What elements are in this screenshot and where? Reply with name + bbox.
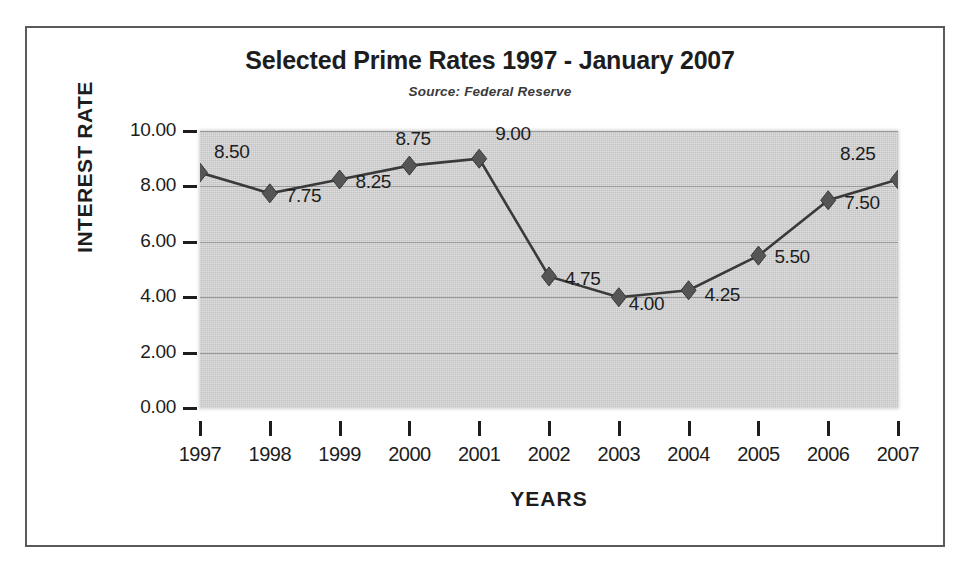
x-axis-tick-mark [339,421,342,436]
data-point-label: 4.00 [629,293,664,315]
data-point-marker [402,156,417,175]
x-axis-tick-mark [199,421,202,436]
data-point-label: 8.50 [214,141,249,163]
data-point-marker [891,170,899,189]
x-axis-tick-label: 2007 [863,443,933,466]
x-axis-tick-mark [269,421,272,436]
x-axis-tick-mark [827,421,830,436]
x-axis-tick-label: 2006 [793,443,863,466]
y-axis-tick-label: 10.00 [104,119,176,141]
data-point-label: 4.25 [705,284,740,306]
data-point-marker [611,288,626,307]
data-point-label: 7.50 [844,192,879,214]
y-axis-tick-mark [183,296,197,299]
data-point-label: 4.75 [565,268,600,290]
x-axis-tick-mark [408,421,411,436]
y-axis-tick-label: 4.00 [104,285,176,307]
data-point-label: 7.75 [286,185,321,207]
x-axis-tick-mark [688,421,691,436]
chart-title: Selected Prime Rates 1997 - January 2007 [60,46,920,75]
x-axis-tick-label: 2000 [374,443,444,466]
x-axis-tick-mark [757,421,760,436]
y-axis-tick-mark [183,241,197,244]
x-axis-tick-mark [618,421,621,436]
data-series-line [200,131,898,408]
data-point-marker [821,191,836,210]
x-axis-tick-label: 1999 [305,443,375,466]
y-axis-tick-mark [183,407,197,410]
x-axis-tick-label: 2001 [444,443,514,466]
y-axis-tick-mark [183,130,197,133]
x-axis-tick-label: 2005 [723,443,793,466]
data-point-marker [262,184,277,203]
data-point-label: 8.25 [840,143,875,165]
y-axis-tick-label: 2.00 [104,341,176,363]
data-point-label: 5.50 [774,246,809,268]
x-axis-tick-mark [897,421,900,436]
data-point-label: 9.00 [495,123,530,145]
x-axis-tick-mark [548,421,551,436]
x-axis-tick-label: 2002 [514,443,584,466]
x-axis-tick-mark [478,421,481,436]
data-point-marker [681,281,696,300]
y-axis-tick-label: 8.00 [104,174,176,196]
data-point-marker [751,246,766,265]
data-point-marker [200,163,208,182]
y-axis-tick-label: 6.00 [104,230,176,252]
y-axis-title: INTEREST RATE [73,42,97,292]
y-axis-tick-label: 0.00 [104,396,176,418]
y-axis-tick-mark [183,185,197,188]
x-axis-title: YEARS [200,487,898,511]
plot-area [200,131,898,408]
y-axis-tick-mark [183,352,197,355]
x-axis-tick-label: 2004 [654,443,724,466]
chart-figure: Selected Prime Rates 1997 - January 2007… [0,0,968,577]
x-axis-tick-label: 2003 [584,443,654,466]
data-point-marker [332,170,347,189]
data-point-label: 8.25 [356,171,391,193]
chart-source-note: Source: Federal Reserve [60,84,920,99]
data-point-label: 8.75 [395,128,430,150]
x-axis-tick-label: 1997 [165,443,235,466]
x-axis-tick-label: 1998 [235,443,305,466]
